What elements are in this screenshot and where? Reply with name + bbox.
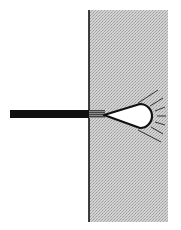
hatched-segment [89,110,105,118]
rod [10,110,89,118]
diagram [0,0,181,230]
